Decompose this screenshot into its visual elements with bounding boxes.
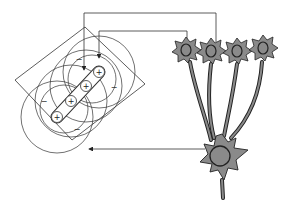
input-neuron-3 [223,38,252,64]
minus-label: − [76,55,83,64]
input-neuron-1 [172,37,201,63]
input-neuron-4 [249,35,278,61]
receptive-field-diagram: + + + + − − − − [0,0,291,208]
minus-label: − [111,83,118,92]
output-neuron [200,134,248,180]
input-neuron-2 [197,38,226,64]
plus-label: + [96,68,103,77]
plus-label: + [83,82,90,91]
minus-label: − [41,97,48,106]
plus-label: + [54,113,61,122]
axons [190,62,262,198]
plus-label: + [68,97,75,106]
minus-label: − [74,125,81,134]
